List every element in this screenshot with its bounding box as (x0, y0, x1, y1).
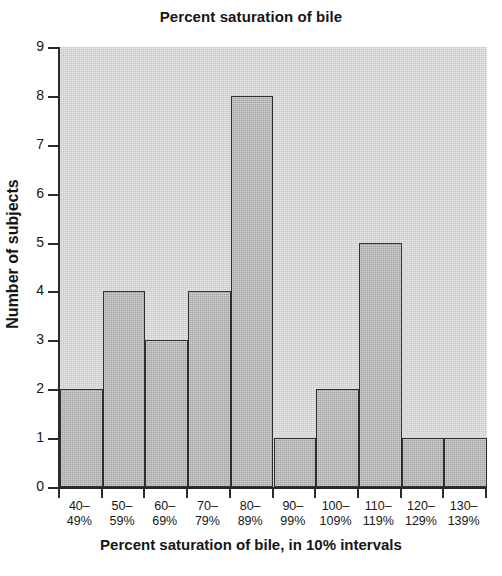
x-axis-title: Percent saturation of bile, in 10% inter… (0, 536, 502, 553)
x-axis-tick-label: 120–129% (400, 499, 443, 529)
x-axis-tick (143, 487, 145, 498)
y-axis-tick-label: 2 (18, 380, 44, 396)
x-axis-tick-label: 110–119% (357, 499, 400, 529)
y-axis-tick-label: 6 (18, 185, 44, 201)
x-axis-tick (357, 487, 359, 498)
x-axis-tick-label: 90–99% (272, 499, 315, 529)
bar (444, 438, 487, 487)
bar (359, 243, 402, 487)
x-axis-tick (314, 487, 316, 498)
bar (188, 291, 231, 487)
y-axis-tick-label: 4 (18, 282, 44, 298)
y-axis-tick-label: 9 (18, 38, 44, 54)
x-axis-tick-label: 60–69% (143, 499, 186, 529)
x-axis-tick (186, 487, 188, 498)
histogram-chart: Percent saturation of bile Number of sub… (0, 0, 502, 576)
x-axis-tick-label: 130–139% (442, 499, 485, 529)
x-axis-tick (101, 487, 103, 498)
x-axis-tick (272, 487, 274, 498)
bar (274, 438, 317, 487)
x-axis-tick-label: 100–109% (314, 499, 357, 529)
bar (60, 389, 103, 487)
plot-area (58, 47, 487, 489)
bar (231, 96, 274, 487)
x-axis-tick (400, 487, 402, 498)
x-axis-tick-label: 40–49% (58, 499, 101, 529)
x-axis-tick (442, 487, 444, 498)
y-axis-tick-label: 5 (18, 234, 44, 250)
bar (316, 389, 359, 487)
bars-layer (60, 47, 487, 487)
bar (145, 340, 188, 487)
bar (103, 291, 146, 487)
x-axis-tick-label: 50–59% (101, 499, 144, 529)
y-axis-tick-label: 0 (18, 478, 44, 494)
chart-title: Percent saturation of bile (0, 8, 502, 25)
y-axis-tick-label: 1 (18, 429, 44, 445)
y-axis-tick-label: 8 (18, 87, 44, 103)
y-axis-tick-label: 7 (18, 136, 44, 152)
x-axis-tick-label: 80–89% (229, 499, 272, 529)
y-axis-tick-label: 3 (18, 331, 44, 347)
x-axis-tick-label: 70–79% (186, 499, 229, 529)
x-axis-tick (485, 487, 487, 498)
x-axis-tick (229, 487, 231, 498)
x-axis-tick (58, 487, 60, 498)
bar (402, 438, 445, 487)
